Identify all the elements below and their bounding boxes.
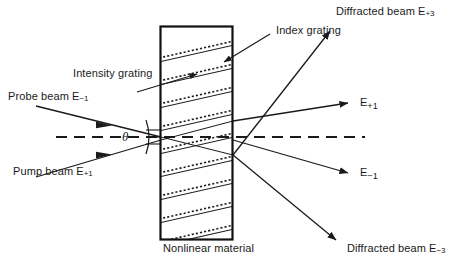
diffracted-beam-plus3-subscript: +3 [426, 9, 435, 18]
diffracted-beam-minus3-label: Diffracted beam E−3 [347, 243, 445, 255]
probe-beam-subscript: −1 [80, 94, 89, 103]
figure-root: Intensity grating Index grating Probe be… [0, 0, 458, 265]
diffracted-beam-minus3-ray [233, 155, 336, 240]
beam-plus1-subscript: +1 [367, 101, 377, 111]
beam-plus1-ray [233, 103, 348, 121]
theta-angle-label: θ [122, 130, 128, 143]
diffracted-beam-plus3-label: Diffracted beam E+3 [336, 6, 434, 18]
intensity-grating-label: Intensity grating [73, 68, 152, 79]
beam-minus1-ray [233, 140, 348, 173]
nonlinear-material-rect [161, 27, 233, 240]
beam-minus1-subscript: −1 [367, 171, 377, 181]
pump-beam-label: Pump beam E+1 [13, 166, 93, 178]
beam-minus1-label: E−1 [360, 167, 378, 181]
index-grating-label: Index grating [276, 25, 341, 36]
nonlinear-material-label: Nonlinear material [163, 243, 254, 254]
beam-plus1-label: E+1 [360, 97, 378, 111]
figure-drawing [0, 0, 458, 265]
probe-beam-label: Probe beam E−1 [8, 91, 88, 103]
diffracted-beam-minus3-subscript: −3 [437, 246, 446, 255]
probe-beam-ray [36, 106, 161, 137]
pump-beam-subscript: +1 [84, 169, 93, 178]
